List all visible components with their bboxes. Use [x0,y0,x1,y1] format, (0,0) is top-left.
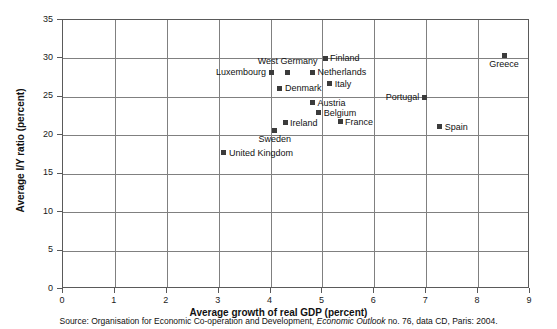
y-tick-mark [57,57,62,58]
x-tick-mark [321,288,322,293]
x-tick-label: 5 [311,296,331,305]
x-tick-mark [373,288,374,293]
data-point [285,70,290,75]
y-tick-mark [57,250,62,251]
gridline-vertical [219,20,220,287]
data-point [221,150,226,155]
x-tick-mark [270,288,271,293]
data-point-label: Ireland [290,118,318,127]
y-tick-label: 35 [43,15,53,24]
data-point [502,53,507,58]
source-note: Source: Organisation for Economic Co-ope… [0,316,557,326]
y-tick-label: 10 [43,207,53,216]
x-tick-mark [166,288,167,293]
gridline-horizontal [63,135,528,136]
gridline-horizontal [63,251,528,252]
x-tick-label: 9 [519,296,539,305]
source-suffix: no. 76, data CD, Paris: 2004. [386,316,498,326]
data-point-label: United Kingdom [229,148,293,157]
data-point-label: Finland [330,54,360,63]
x-tick-label: 6 [363,296,383,305]
x-tick-label: 2 [156,296,176,305]
y-tick-label: 15 [43,168,53,177]
data-point-label: Greece [489,60,519,69]
y-tick-mark [57,19,62,20]
data-point [310,100,315,105]
y-tick-label: 20 [43,130,53,139]
x-tick-label: 4 [260,296,280,305]
x-tick-mark [62,288,63,293]
data-point [323,56,328,61]
data-point-label: Portugal [386,93,420,102]
x-tick-label: 3 [208,296,228,305]
data-point [272,128,277,133]
data-point [316,110,321,115]
y-tick-mark [57,211,62,212]
x-tick-label: 0 [52,296,72,305]
data-point [277,86,282,91]
y-tick-mark [57,173,62,174]
data-point [310,70,315,75]
x-tick-mark [529,288,530,293]
x-tick-label: 7 [415,296,435,305]
source-prefix: Source: Organisation for Economic Co-ope… [60,316,317,326]
data-point-label: Netherlands [318,68,367,77]
y-axis-title: Average I/Y ratio (percent) [13,0,29,300]
gridline-horizontal [63,97,528,98]
data-point [283,120,288,125]
gridline-horizontal [63,174,528,175]
data-point [327,81,332,86]
gridline-vertical [167,20,168,287]
data-point-label: Sweden [258,135,291,144]
y-tick-mark [57,134,62,135]
data-point-label: Spain [445,122,468,131]
scatter-plot-figure: Average I/Y ratio (percent) 051015202530… [0,0,557,329]
y-tick-label: 25 [43,91,53,100]
gridline-horizontal [63,212,528,213]
x-tick-mark [114,288,115,293]
x-tick-mark [477,288,478,293]
data-point-label: West Germany [258,57,318,66]
source-italic: Economic Outlook [317,316,386,326]
y-tick-label: 0 [48,284,53,293]
data-point-label: Austria [318,98,346,107]
data-point [422,95,427,100]
gridline-vertical [478,20,479,287]
y-axis-title-text: Average I/Y ratio (percent) [16,88,27,212]
data-point-label: Luxembourg [216,68,266,77]
data-point-label: Denmark [285,84,322,93]
data-point-label: Italy [335,79,352,88]
x-tick-mark [425,288,426,293]
data-point [338,119,343,124]
y-tick-label: 5 [48,245,53,254]
data-point [437,124,442,129]
data-point-label: France [345,117,373,126]
x-tick-label: 1 [104,296,124,305]
y-tick-mark [57,96,62,97]
gridline-vertical [374,20,375,287]
y-tick-label: 30 [43,53,53,62]
x-tick-mark [218,288,219,293]
x-tick-label: 8 [467,296,487,305]
gridline-vertical [115,20,116,287]
data-point [269,70,274,75]
gridline-vertical [426,20,427,287]
